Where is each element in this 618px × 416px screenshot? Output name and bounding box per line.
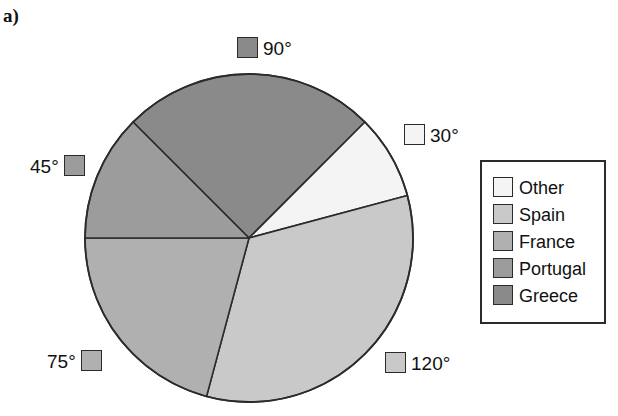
callout-swatch-other: [404, 124, 425, 145]
legend-swatch-spain: [493, 204, 513, 224]
callout-swatch-spain: [385, 352, 406, 373]
pie-chart-figure: a) 90° 30° 45° 75° 120° Other Spain: [0, 0, 618, 416]
callout-label-portugal: 45°: [30, 157, 59, 176]
legend-item-portugal: Portugal: [493, 254, 604, 281]
pie-slice-group: [85, 74, 413, 402]
legend-label-other: Other: [519, 179, 564, 197]
callout-other: 30°: [404, 124, 459, 145]
callout-label-spain: 120°: [411, 354, 450, 373]
callout-label-other: 30°: [430, 126, 459, 145]
legend-item-france: France: [493, 227, 604, 254]
callout-label-greece: 90°: [263, 39, 292, 58]
legend-label-portugal: Portugal: [519, 260, 586, 278]
callout-swatch-portugal: [64, 155, 85, 176]
legend-item-other: Other: [493, 173, 604, 200]
legend-swatch-greece: [493, 285, 513, 305]
legend-item-spain: Spain: [493, 200, 604, 227]
legend-item-greece: Greece: [493, 281, 604, 308]
callout-portugal: 45°: [30, 155, 85, 176]
legend-label-greece: Greece: [519, 287, 578, 305]
legend-swatch-other: [493, 177, 513, 197]
callout-greece: 90°: [237, 37, 292, 58]
callout-france: 75°: [47, 350, 102, 371]
legend-swatch-portugal: [493, 258, 513, 278]
callout-swatch-greece: [237, 37, 258, 58]
legend-label-spain: Spain: [519, 206, 565, 224]
legend-box: Other Spain France Portugal Greece: [480, 160, 606, 324]
callout-label-france: 75°: [47, 352, 76, 371]
callout-spain: 120°: [385, 352, 450, 373]
legend-label-france: France: [519, 233, 575, 251]
legend-swatch-france: [493, 231, 513, 251]
callout-swatch-france: [81, 350, 102, 371]
